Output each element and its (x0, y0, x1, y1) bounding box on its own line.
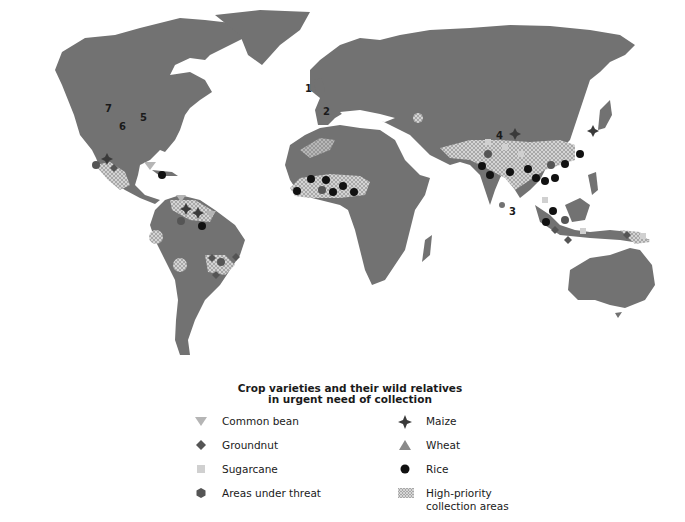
areas-under-threat-icon (194, 487, 212, 501)
map-label-2: 2 (323, 106, 330, 117)
legend-title: Crop varieties and their wild relatives … (150, 383, 550, 405)
common-bean-icon (194, 415, 212, 429)
wheat-icon (398, 439, 416, 453)
legend: Crop varieties and their wild relatives … (190, 383, 610, 405)
high-priority-areas-icon (398, 487, 416, 501)
legend-label: Common bean (222, 415, 299, 428)
legend-item-common-bean: Common bean (194, 415, 299, 429)
world-map: 1 2 3 4 5 6 7 (0, 0, 685, 370)
sugarcane-icon (194, 463, 212, 477)
legend-label: Rice (426, 463, 448, 476)
map-label-1: 1 (305, 83, 312, 94)
legend-item-maize: Maize (398, 415, 456, 429)
rice-icon (398, 463, 416, 477)
maize-icon (398, 415, 416, 429)
legend-item-groundnut: Groundnut (194, 439, 278, 453)
legend-item-rice: Rice (398, 463, 448, 477)
philippines (588, 172, 598, 195)
legend-item-sugarcane: Sugarcane (194, 463, 278, 477)
legend-label: High-prioritycollection areas (426, 487, 509, 513)
legend-label-line2: collection areas (426, 500, 509, 512)
legend-label: Sugarcane (222, 463, 278, 476)
legend-item-areas-under-threat: Areas under threat (194, 487, 321, 501)
legend-item-high-priority-areas: High-prioritycollection areas (398, 487, 509, 513)
madagascar (422, 235, 432, 262)
borneo (565, 198, 590, 222)
north-america (55, 18, 250, 204)
legend-label: Wheat (426, 439, 460, 452)
legend-title-line2: in urgent need of collection (150, 394, 550, 405)
map-label-6: 6 (119, 121, 126, 132)
legend-item-wheat: Wheat (398, 439, 460, 453)
legend-label: Groundnut (222, 439, 278, 452)
legend-label: Areas under threat (222, 487, 321, 500)
japan (598, 100, 612, 130)
map-label-7: 7 (105, 103, 112, 114)
map-label-5: 5 (140, 112, 147, 123)
australia (568, 248, 655, 308)
legend-label: Maize (426, 415, 456, 428)
legend-label-line1: High-priority (426, 487, 492, 499)
map-label-4: 4 (496, 130, 503, 141)
map-label-3: 3 (509, 206, 516, 217)
groundnut-icon (194, 439, 212, 453)
